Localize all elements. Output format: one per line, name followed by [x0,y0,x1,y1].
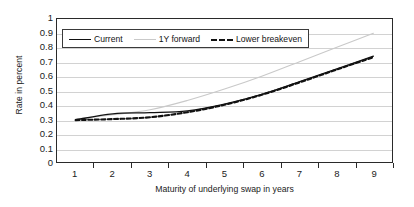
swap-rate-chart: Rate in percent 00.10.20.30.40.50.60.70.… [0,0,414,207]
x-tick-mark [393,163,394,168]
y-tick-label: 0 [48,158,53,168]
x-tick-label: 6 [259,168,264,180]
x-tick-label: 1 [72,168,77,180]
y-tick-label: 0.4 [40,100,53,110]
chart-legend: Current 1Y forward Lower breakeven [62,29,309,48]
x-axis-tick-labels: 123456789 [56,168,393,182]
legend-swatch-gray-line-icon [134,35,156,43]
y-tick-label: 1 [48,13,53,23]
y-axis-tick-labels: 00.10.20.30.40.50.60.70.80.91 [20,13,53,169]
y-tick-label: 0.9 [40,28,53,38]
x-tick-label: 8 [334,168,339,180]
series-line-current [76,56,374,120]
legend-label: 1Y forward [159,34,200,44]
y-tick-label: 0.5 [40,86,53,96]
y-tick-label: 0.8 [40,42,53,52]
x-tick-label: 5 [222,168,227,180]
x-tick-label: 3 [147,168,152,180]
legend-label: Lower breakeven [236,34,302,44]
x-tick-label: 9 [372,168,377,180]
y-tick-label: 0.7 [40,57,53,67]
y-tick-label: 0.6 [40,71,53,81]
x-axis-title: Maturity of underlying swap in years [56,184,393,194]
x-tick-label: 2 [110,168,115,180]
legend-label: Current [94,34,123,44]
legend-swatch-dashed-line-icon [211,35,233,43]
y-tick-label: 0.3 [40,115,53,125]
y-tick-label: 0.2 [40,129,53,139]
legend-swatch-solid-line-icon [69,35,91,43]
legend-item-lower-breakeven: Lower breakeven [211,30,302,47]
legend-item-1y-forward: 1Y forward [134,30,200,47]
y-tick-label: 0.1 [40,144,53,154]
x-tick-label: 4 [184,168,189,180]
x-tick-label: 7 [297,168,302,180]
legend-item-current: Current [69,30,123,47]
